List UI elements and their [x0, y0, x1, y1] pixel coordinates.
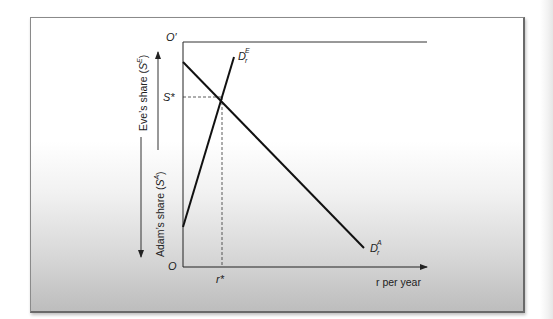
eve-share-close: ): [137, 55, 149, 59]
adam-demand-sup: A: [377, 239, 382, 246]
eve-share-title: Eve’s share (SE): [136, 55, 148, 131]
s-star-label: S*: [163, 92, 175, 103]
x-axis-label: r per year: [376, 276, 421, 288]
adam-demand-curve: [183, 62, 364, 248]
eve-demand-label: D E r: [238, 51, 246, 62]
eve-demand-sup: E: [245, 47, 250, 54]
adam-share-symbol: S: [154, 180, 166, 187]
adam-share-title: Adam’s share (SA): [153, 171, 165, 257]
adam-share-close: ): [154, 171, 166, 175]
eve-demand-curve: [183, 57, 234, 227]
diagram-canvas: [0, 0, 553, 319]
adam-demand-sub: r: [377, 249, 379, 256]
adam-demand-label: D A r: [370, 243, 378, 254]
eve-share-symbol: S: [137, 63, 149, 70]
adam-share-sup: A: [153, 175, 160, 180]
eve-demand-sub: r: [245, 57, 247, 64]
r-star-label: r*: [216, 274, 224, 285]
eve-share-sup: E: [136, 58, 143, 63]
adam-share-text: Adam’s share (: [154, 187, 166, 257]
origin-prime-label: O′: [166, 32, 177, 43]
origin-label: O: [168, 261, 177, 272]
eve-share-text: Eve’s share (: [137, 70, 149, 131]
